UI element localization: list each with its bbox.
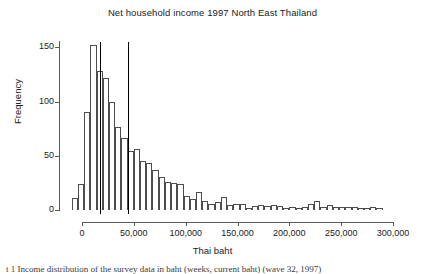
x-axis-tick bbox=[393, 222, 394, 226]
x-axis-tick bbox=[186, 222, 187, 226]
x-axis-tick bbox=[82, 222, 83, 226]
histogram-bar bbox=[376, 208, 382, 210]
y-axis-tick bbox=[55, 47, 59, 48]
plot-area bbox=[63, 38, 403, 210]
x-axis-tick-label: 300,000 bbox=[363, 228, 423, 238]
x-axis-tick bbox=[238, 222, 239, 226]
y-axis-tick bbox=[55, 156, 59, 157]
histogram-figure: Net household income 1997 North East Tha… bbox=[0, 0, 425, 274]
y-axis-tick-label: 100 bbox=[24, 96, 54, 106]
mean-line bbox=[128, 42, 130, 214]
y-axis-line bbox=[59, 41, 60, 211]
y-axis-tick bbox=[55, 102, 59, 103]
x-axis-title: Thai baht bbox=[0, 245, 425, 256]
bar-series bbox=[63, 38, 403, 210]
x-axis-tick bbox=[134, 222, 135, 226]
x-axis-tick bbox=[289, 222, 290, 226]
y-axis-tick-label: 50 bbox=[24, 150, 54, 160]
y-axis-title: Frequency bbox=[12, 37, 23, 167]
y-axis-tick-label: 0 bbox=[24, 204, 54, 214]
median-line bbox=[100, 42, 102, 214]
figure-caption: t 1 Income distribution of the survey da… bbox=[6, 264, 419, 274]
y-axis-tick bbox=[55, 210, 59, 211]
x-axis-tick bbox=[341, 222, 342, 226]
y-axis-tick-label: 150 bbox=[24, 41, 54, 51]
chart-title: Net household income 1997 North East Tha… bbox=[0, 7, 425, 18]
